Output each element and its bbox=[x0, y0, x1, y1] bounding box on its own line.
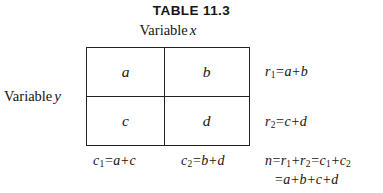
table-cell-b: b bbox=[165, 48, 248, 96]
row-total-r2-subscript: 2 bbox=[270, 120, 275, 130]
column-total-c1: c1=a+c bbox=[93, 153, 136, 169]
table-cell-d-label: d bbox=[203, 112, 211, 130]
grand-total-plus-2: + bbox=[331, 153, 340, 168]
grand-total-subscript-r2: 2 bbox=[305, 159, 310, 169]
row-total-r1: r1=a+b bbox=[265, 64, 308, 80]
row-variable-symbol: y bbox=[52, 88, 61, 104]
row-total-r2: r2=c+d bbox=[265, 114, 307, 130]
grand-total-symbol-c1: c bbox=[320, 153, 326, 168]
row-total-r1-subscript: 1 bbox=[270, 70, 275, 80]
column-total-c2-equals: = bbox=[192, 153, 201, 168]
grand-total-symbol-c2: c bbox=[340, 153, 346, 168]
row-total-r1-expression: a+b bbox=[284, 64, 307, 79]
table-cell-c-label: c bbox=[122, 112, 129, 130]
table-title: TABLE 11.3 bbox=[0, 3, 383, 18]
contingency-table-grid: a b c d bbox=[86, 47, 250, 146]
column-variable-symbol: x bbox=[188, 22, 197, 38]
table-cell-b-label: b bbox=[203, 63, 211, 81]
column-total-c1-expression: a+c bbox=[113, 153, 135, 168]
table-cell-a-label: a bbox=[122, 63, 130, 81]
row-total-r2-expression: c+d bbox=[284, 114, 306, 129]
grand-total-subscript-c2: 2 bbox=[346, 159, 351, 169]
column-variable-caption: Variablex bbox=[86, 22, 250, 39]
column-total-c2-expression: b+d bbox=[201, 153, 224, 168]
grand-total-plus-1: + bbox=[291, 153, 300, 168]
table-cell-a: a bbox=[87, 48, 164, 96]
grand-total: n=r1+r2=c1+c2 =a+b+c+d bbox=[265, 153, 351, 188]
grand-total-equals-2: = bbox=[311, 153, 320, 168]
table-figure: TABLE 11.3 Variablex Variabley a b c d r… bbox=[0, 0, 383, 193]
table-cell-c: c bbox=[87, 97, 164, 145]
table-cell-d: d bbox=[165, 97, 248, 145]
row-variable-caption-text: Variable bbox=[4, 88, 52, 104]
grand-total-line-1: n=r1+r2=c1+c2 bbox=[265, 153, 351, 168]
column-variable-caption-text: Variable bbox=[140, 22, 188, 38]
grand-total-equals-1: = bbox=[272, 153, 281, 168]
row-variable-caption: Variabley bbox=[4, 88, 80, 105]
grand-total-line-2: =a+b+c+d bbox=[265, 172, 351, 188]
column-total-c1-equals: = bbox=[104, 153, 113, 168]
column-total-c2: c2=b+d bbox=[181, 153, 224, 169]
grand-total-symbol-n: n bbox=[265, 153, 272, 168]
